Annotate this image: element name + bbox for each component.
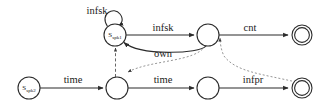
state-transition-diagram: Sspk1 Sspk2 <box>0 0 325 109</box>
state-node-t2[interactable] <box>106 77 128 99</box>
state-node-f1[interactable] <box>292 25 312 45</box>
state-node-t1[interactable] <box>197 24 219 46</box>
state-s-spk1-label-sub: spk1 <box>112 35 122 40</box>
transition-label-time-2: time <box>154 74 173 85</box>
transition-label-time-1: time <box>64 74 83 85</box>
state-node-f2[interactable] <box>292 78 312 98</box>
transition-label-cnt: cnt <box>244 22 257 33</box>
transition-label-infpr: infpr <box>243 74 264 85</box>
state-node-s-spk1[interactable]: Sspk1 <box>104 24 126 46</box>
transition-label-infsk: infsk <box>153 22 175 33</box>
state-f1-circle-inner <box>295 28 310 43</box>
fsa-canvas: Sspk1 Sspk2 <box>0 0 325 109</box>
transition-label-own: own <box>154 48 173 59</box>
state-s-spk2-label-sub: spk2 <box>26 88 36 93</box>
state-t2-circle[interactable] <box>106 77 128 99</box>
state-t3-circle[interactable] <box>197 77 219 99</box>
state-t1-circle[interactable] <box>197 24 219 46</box>
transition-label-loop-infsk: infsk <box>87 5 109 16</box>
state-node-s-spk2[interactable]: Sspk2 <box>18 77 40 99</box>
state-node-t3[interactable] <box>197 77 219 99</box>
state-f2-circle-inner <box>295 81 310 96</box>
